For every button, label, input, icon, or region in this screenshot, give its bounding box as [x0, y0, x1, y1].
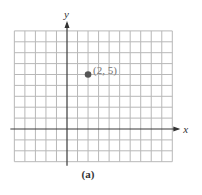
coordinate-plane: x y (2, 5)	[0, 0, 202, 195]
point-label: (2, 5)	[93, 64, 117, 77]
data-point	[85, 71, 92, 78]
x-axis-label: x	[182, 123, 188, 135]
points: (2, 5)	[85, 64, 117, 78]
figure-caption: (a)	[0, 168, 176, 180]
y-axis-label: y	[63, 8, 69, 20]
grid	[14, 31, 172, 162]
x-axis-arrow-icon	[173, 127, 180, 132]
y-axis-arrow-icon	[65, 21, 70, 28]
